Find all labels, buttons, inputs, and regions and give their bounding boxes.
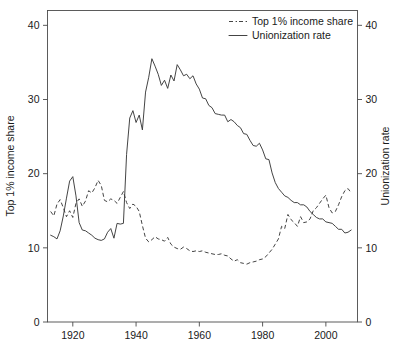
- x-axis-ticks: [73, 322, 326, 327]
- y-axis-left-tick-labels: 010203040: [28, 19, 40, 328]
- x-tick-label-1960: 1960: [188, 329, 212, 341]
- y-right-tick-label-10: 10: [366, 242, 378, 254]
- legend-label-unionization-rate: Unionization rate: [252, 29, 331, 41]
- series-unionization-rate: [51, 59, 352, 241]
- y-right-tick-label-30: 30: [366, 93, 378, 105]
- chart-figure: 19201940196019802000 010203040 010203040…: [0, 0, 398, 356]
- y-right-tick-label-40: 40: [366, 19, 378, 31]
- x-tick-label-2000: 2000: [314, 329, 338, 341]
- y-right-tick-label-0: 0: [366, 316, 372, 328]
- x-tick-label-1940: 1940: [124, 329, 148, 341]
- y-left-tick-label-40: 40: [28, 19, 40, 31]
- plot-frame: [48, 11, 358, 323]
- y-left-tick-label-20: 20: [28, 167, 40, 179]
- x-axis-tick-labels: 19201940196019802000: [61, 329, 338, 341]
- y-left-tick-label-30: 30: [28, 93, 40, 105]
- x-tick-label-1980: 1980: [251, 329, 275, 341]
- y-axis-left-ticks: [43, 25, 48, 322]
- y-left-tick-label-0: 0: [34, 316, 40, 328]
- y-axis-right-title: Unionization rate: [379, 126, 391, 205]
- x-tick-label-1920: 1920: [61, 329, 85, 341]
- y-right-tick-label-20: 20: [366, 167, 378, 179]
- series-top-1-percent-income-share: [51, 180, 352, 264]
- y-axis-right-tick-labels: 010203040: [366, 19, 378, 328]
- y-left-tick-label-10: 10: [28, 242, 40, 254]
- chart-legend: Top 1% income share Unionization rate: [229, 15, 353, 41]
- legend-label-income-share: Top 1% income share: [252, 15, 353, 27]
- chart-svg: 19201940196019802000 010203040 010203040…: [0, 0, 398, 356]
- y-axis-left-title: Top 1% income share: [4, 115, 16, 216]
- y-axis-right-ticks: [358, 25, 363, 322]
